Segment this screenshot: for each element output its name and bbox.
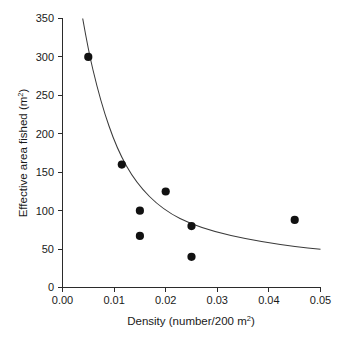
x-tick-002: 0.02 [155, 288, 176, 307]
x-axis-title: Density (number/200 m2) [127, 314, 255, 327]
x-tick-001: 0.01 [103, 288, 124, 307]
y-tick-label: 350 [36, 12, 54, 24]
y-tick-250: 250 [36, 89, 63, 101]
x-tick-label: 0.00 [52, 294, 73, 306]
y-axis-title-tail: ) [17, 89, 29, 93]
data-points [84, 53, 299, 261]
x-axis-title-base: Density (number/200 m [127, 315, 247, 327]
x-tick-004: 0.04 [258, 288, 279, 307]
x-tick-label: 0.04 [258, 294, 279, 306]
data-point [162, 187, 170, 195]
x-tick-label: 0.05 [310, 294, 331, 306]
data-point [118, 161, 126, 169]
y-tick-label: 300 [36, 51, 54, 63]
y-tick-label: 100 [36, 205, 54, 217]
y-tick-label: 200 [36, 128, 54, 140]
data-point [187, 222, 195, 230]
y-axis-title-base: Effective area fished (m [17, 97, 29, 218]
y-axis-ticks: 350 300 250 200 150 100 [36, 12, 63, 293]
data-point [291, 216, 299, 224]
x-tick-003: 0.03 [207, 288, 228, 307]
x-tick-000: 0.00 [52, 288, 73, 307]
y-tick-100: 100 [36, 205, 63, 217]
y-tick-label: 0 [48, 281, 54, 293]
scatter-plot: 350 300 250 200 150 100 [0, 0, 349, 340]
data-point [84, 53, 92, 61]
y-axis-title: Effective area fished (m2) [16, 89, 29, 218]
fitted-curve [83, 19, 321, 250]
x-axis-title-tail: ) [251, 315, 255, 327]
y-tick-label: 50 [42, 243, 54, 255]
y-tick-300: 300 [36, 51, 63, 63]
data-point [187, 253, 195, 261]
y-tick-350: 350 [36, 12, 63, 24]
x-tick-label: 0.01 [103, 294, 124, 306]
y-tick-50: 50 [42, 243, 63, 255]
x-axis-ticks: 0.00 0.01 0.02 0.03 0.04 0.05 [52, 288, 331, 307]
x-tick-label: 0.03 [207, 294, 228, 306]
axes [63, 19, 321, 288]
y-tick-200: 200 [36, 128, 63, 140]
data-point [136, 207, 144, 215]
x-tick-005: 0.05 [310, 288, 331, 307]
y-tick-label: 150 [36, 166, 54, 178]
y-tick-0: 0 [48, 281, 63, 293]
chart-figure: 350 300 250 200 150 100 [0, 0, 349, 340]
data-point [136, 232, 144, 240]
x-tick-label: 0.02 [155, 294, 176, 306]
y-tick-150: 150 [36, 166, 63, 178]
y-tick-label: 250 [36, 89, 54, 101]
